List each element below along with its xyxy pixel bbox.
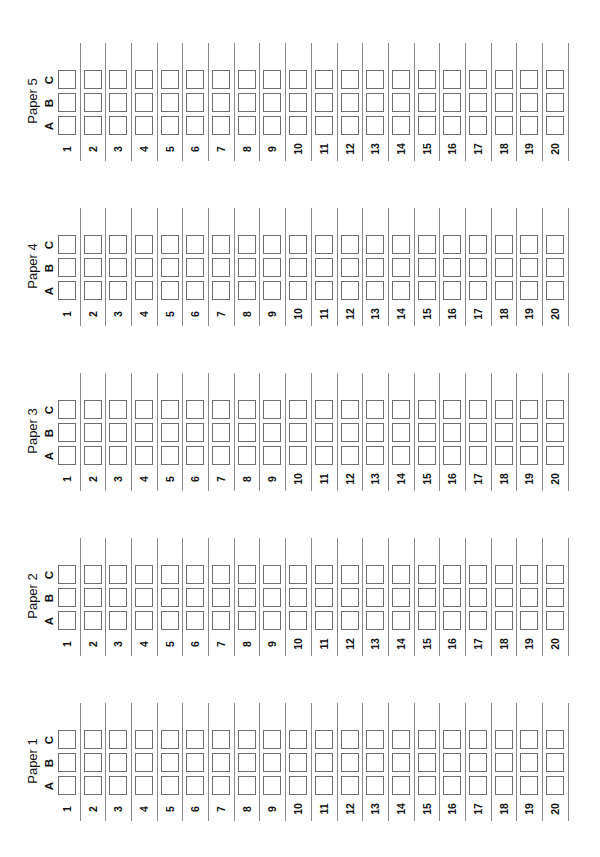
answer-box-q10-a[interactable] xyxy=(289,611,307,630)
answer-box-q15-b[interactable] xyxy=(418,93,436,112)
answer-box-q13-b[interactable] xyxy=(366,93,384,112)
answer-box-q11-a[interactable] xyxy=(315,611,333,630)
answer-box-q10-a[interactable] xyxy=(289,281,307,300)
answer-box-q11-c[interactable] xyxy=(315,565,333,584)
answer-box-q3-a[interactable] xyxy=(109,116,127,135)
answer-box-q18-c[interactable] xyxy=(495,730,513,749)
answer-box-q19-c[interactable] xyxy=(520,70,538,89)
answer-box-q18-c[interactable] xyxy=(495,565,513,584)
answer-box-q14-c[interactable] xyxy=(392,70,410,89)
answer-box-q1-c[interactable] xyxy=(58,730,76,749)
answer-box-q2-b[interactable] xyxy=(84,753,102,772)
answer-box-q17-b[interactable] xyxy=(469,93,487,112)
answer-box-q15-c[interactable] xyxy=(418,70,436,89)
answer-box-q11-c[interactable] xyxy=(315,730,333,749)
answer-box-q7-b[interactable] xyxy=(212,423,230,442)
answer-box-q2-a[interactable] xyxy=(84,446,102,465)
answer-box-q2-a[interactable] xyxy=(84,116,102,135)
answer-box-q16-a[interactable] xyxy=(443,611,461,630)
answer-box-q16-b[interactable] xyxy=(443,423,461,442)
answer-box-q18-b[interactable] xyxy=(495,588,513,607)
answer-box-q18-a[interactable] xyxy=(495,116,513,135)
answer-box-q15-c[interactable] xyxy=(418,730,436,749)
answer-box-q16-b[interactable] xyxy=(443,93,461,112)
answer-box-q8-c[interactable] xyxy=(238,565,256,584)
answer-box-q12-b[interactable] xyxy=(341,93,359,112)
answer-box-q19-b[interactable] xyxy=(520,423,538,442)
answer-box-q4-a[interactable] xyxy=(135,776,153,795)
answer-box-q6-b[interactable] xyxy=(186,753,204,772)
answer-box-q7-a[interactable] xyxy=(212,116,230,135)
answer-box-q2-a[interactable] xyxy=(84,776,102,795)
answer-box-q19-c[interactable] xyxy=(520,565,538,584)
answer-box-q19-c[interactable] xyxy=(520,235,538,254)
answer-box-q2-b[interactable] xyxy=(84,588,102,607)
answer-box-q3-b[interactable] xyxy=(109,588,127,607)
answer-box-q6-c[interactable] xyxy=(186,70,204,89)
answer-box-q18-b[interactable] xyxy=(495,423,513,442)
answer-box-q16-c[interactable] xyxy=(443,730,461,749)
answer-box-q4-c[interactable] xyxy=(135,400,153,419)
answer-box-q9-a[interactable] xyxy=(263,116,281,135)
answer-box-q20-b[interactable] xyxy=(546,423,564,442)
answer-box-q10-c[interactable] xyxy=(289,70,307,89)
answer-box-q6-a[interactable] xyxy=(186,611,204,630)
answer-box-q9-c[interactable] xyxy=(263,400,281,419)
answer-box-q11-a[interactable] xyxy=(315,281,333,300)
answer-box-q1-a[interactable] xyxy=(58,116,76,135)
answer-box-q5-a[interactable] xyxy=(161,281,179,300)
answer-box-q9-b[interactable] xyxy=(263,423,281,442)
answer-box-q8-b[interactable] xyxy=(238,93,256,112)
answer-box-q17-c[interactable] xyxy=(469,730,487,749)
answer-box-q6-a[interactable] xyxy=(186,446,204,465)
answer-box-q5-c[interactable] xyxy=(161,565,179,584)
answer-box-q15-a[interactable] xyxy=(418,446,436,465)
answer-box-q18-c[interactable] xyxy=(495,235,513,254)
answer-box-q7-c[interactable] xyxy=(212,565,230,584)
answer-box-q18-a[interactable] xyxy=(495,776,513,795)
answer-box-q20-b[interactable] xyxy=(546,93,564,112)
answer-box-q1-c[interactable] xyxy=(58,565,76,584)
answer-box-q7-a[interactable] xyxy=(212,281,230,300)
answer-box-q19-a[interactable] xyxy=(520,611,538,630)
answer-box-q18-b[interactable] xyxy=(495,258,513,277)
answer-box-q6-b[interactable] xyxy=(186,93,204,112)
answer-box-q5-c[interactable] xyxy=(161,235,179,254)
answer-box-q8-c[interactable] xyxy=(238,235,256,254)
answer-box-q15-c[interactable] xyxy=(418,565,436,584)
answer-box-q20-a[interactable] xyxy=(546,281,564,300)
answer-box-q2-b[interactable] xyxy=(84,423,102,442)
answer-box-q16-b[interactable] xyxy=(443,258,461,277)
answer-box-q15-b[interactable] xyxy=(418,753,436,772)
answer-box-q3-c[interactable] xyxy=(109,565,127,584)
answer-box-q6-a[interactable] xyxy=(186,281,204,300)
answer-box-q4-c[interactable] xyxy=(135,235,153,254)
answer-box-q3-c[interactable] xyxy=(109,235,127,254)
answer-box-q1-c[interactable] xyxy=(58,235,76,254)
answer-box-q2-a[interactable] xyxy=(84,611,102,630)
answer-box-q5-b[interactable] xyxy=(161,753,179,772)
answer-box-q9-a[interactable] xyxy=(263,776,281,795)
answer-box-q13-b[interactable] xyxy=(366,588,384,607)
answer-box-q2-a[interactable] xyxy=(84,281,102,300)
answer-box-q4-a[interactable] xyxy=(135,446,153,465)
answer-box-q14-a[interactable] xyxy=(392,776,410,795)
answer-box-q8-a[interactable] xyxy=(238,446,256,465)
answer-box-q4-b[interactable] xyxy=(135,423,153,442)
answer-box-q18-a[interactable] xyxy=(495,446,513,465)
answer-box-q12-c[interactable] xyxy=(341,730,359,749)
answer-box-q17-c[interactable] xyxy=(469,400,487,419)
answer-box-q1-b[interactable] xyxy=(58,753,76,772)
answer-box-q12-c[interactable] xyxy=(341,70,359,89)
answer-box-q14-b[interactable] xyxy=(392,423,410,442)
answer-box-q20-b[interactable] xyxy=(546,258,564,277)
answer-box-q4-c[interactable] xyxy=(135,565,153,584)
answer-box-q16-a[interactable] xyxy=(443,116,461,135)
answer-box-q7-c[interactable] xyxy=(212,730,230,749)
answer-box-q2-c[interactable] xyxy=(84,70,102,89)
answer-box-q15-a[interactable] xyxy=(418,611,436,630)
answer-box-q13-c[interactable] xyxy=(366,400,384,419)
answer-box-q16-a[interactable] xyxy=(443,281,461,300)
answer-box-q9-c[interactable] xyxy=(263,235,281,254)
answer-box-q19-a[interactable] xyxy=(520,281,538,300)
